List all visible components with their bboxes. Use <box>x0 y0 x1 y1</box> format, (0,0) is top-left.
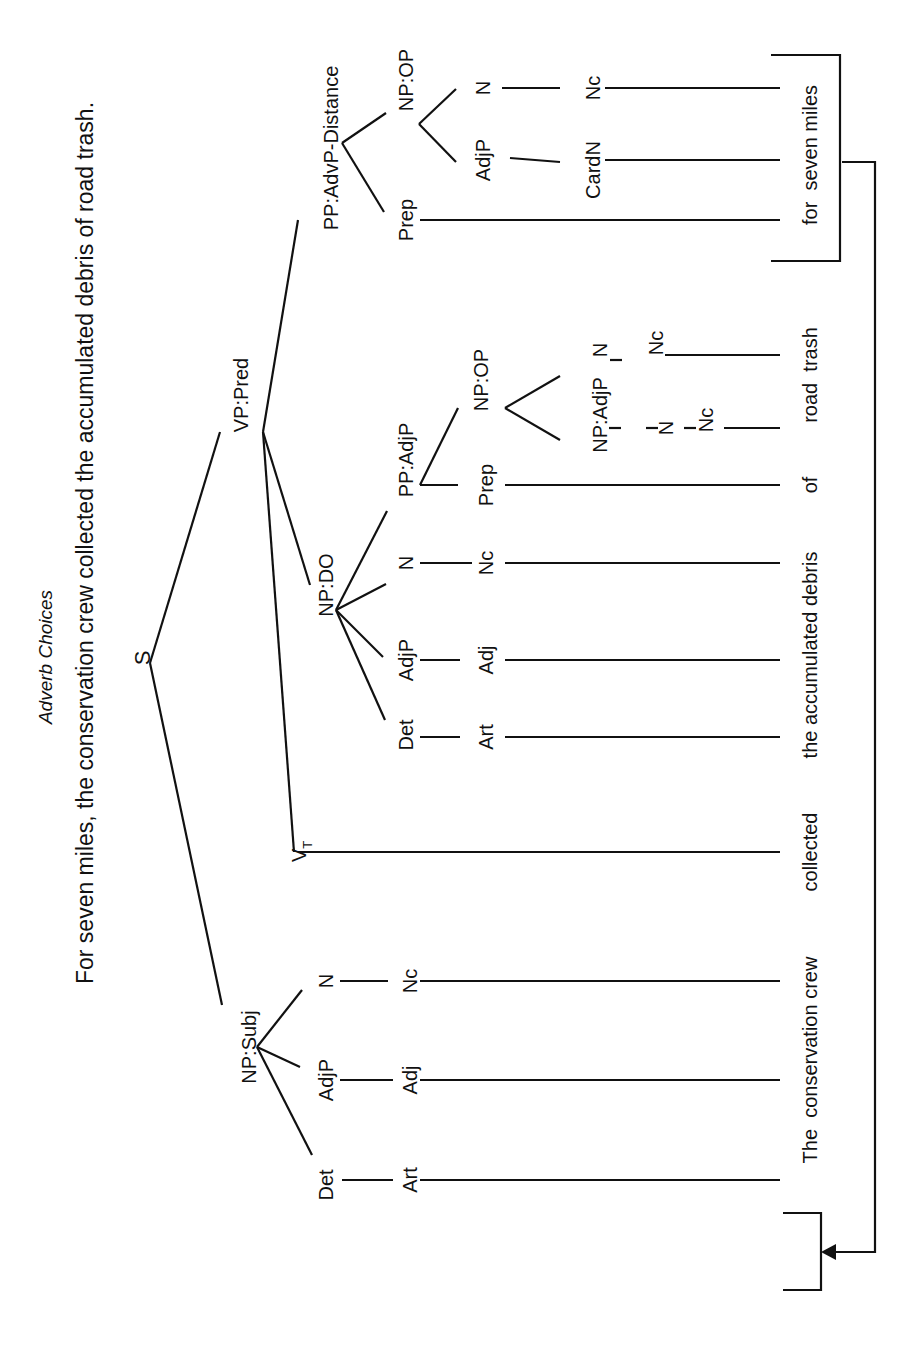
node-do-nc: Nc <box>475 551 497 575</box>
node-adv-adjp: AdjP <box>472 139 494 181</box>
sentence-text: For seven miles, the conservation crew c… <box>72 102 98 984</box>
node-subj-nc: Nc <box>399 969 421 993</box>
node-pp-advp-distance: PP:AdvP-Distance <box>320 66 342 231</box>
node-subj-adjp: AdjP <box>315 1059 337 1101</box>
node-do-nc-top: Nc <box>645 331 667 355</box>
node-adv-nc: Nc <box>582 76 604 100</box>
node-adv-cardn: CardN <box>582 141 604 199</box>
node-adv-n: N <box>472 81 494 95</box>
node-do-np-op: NP:OP <box>470 349 492 411</box>
node-vp-pred: VP:Pred <box>230 358 252 432</box>
node-subj-det: Det <box>315 1169 337 1201</box>
arrowhead-icon <box>821 1244 836 1260</box>
node-do-np-adjp: NP:AdjP <box>589 377 611 453</box>
node-do-n-top: N <box>589 343 611 357</box>
word-road-trash: road trash <box>799 327 821 423</box>
node-do-n-mid: N <box>655 421 677 435</box>
node-subj-art: Art <box>399 1167 421 1193</box>
word-subject: The conservation crew <box>799 956 821 1163</box>
node-do-pp-adjp: PP:AdjP <box>395 423 417 497</box>
node-adv-np-op: NP:OP <box>395 49 417 111</box>
node-np-subj: NP:Subj <box>238 1010 260 1083</box>
node-do-prep: Prep <box>475 464 497 506</box>
node-do-det: Det <box>395 719 417 751</box>
node-s: S <box>130 651 155 666</box>
word-of: of <box>799 476 821 493</box>
node-np-do: NP:DO <box>315 553 337 616</box>
word-adverbial: for seven miles <box>799 85 821 225</box>
word-object: the accumulated debris <box>799 552 821 759</box>
node-adv-prep: Prep <box>395 199 417 241</box>
syntax-tree-diagram: Adverb Choices For seven miles, the cons… <box>0 0 922 1353</box>
node-do-n: N <box>395 556 417 570</box>
node-do-art: Art <box>475 724 497 750</box>
tree-branches <box>150 55 875 1290</box>
node-do-adjp: AdjP <box>395 639 417 681</box>
node-do-nc-mid: Nc <box>695 408 717 432</box>
node-subj-adj: Adj <box>399 1066 421 1095</box>
diagram-title: Adverb Choices <box>35 589 56 725</box>
node-subj-n: N <box>315 974 337 988</box>
word-verb: collected <box>799 813 821 892</box>
node-do-adj: Adj <box>475 646 497 675</box>
